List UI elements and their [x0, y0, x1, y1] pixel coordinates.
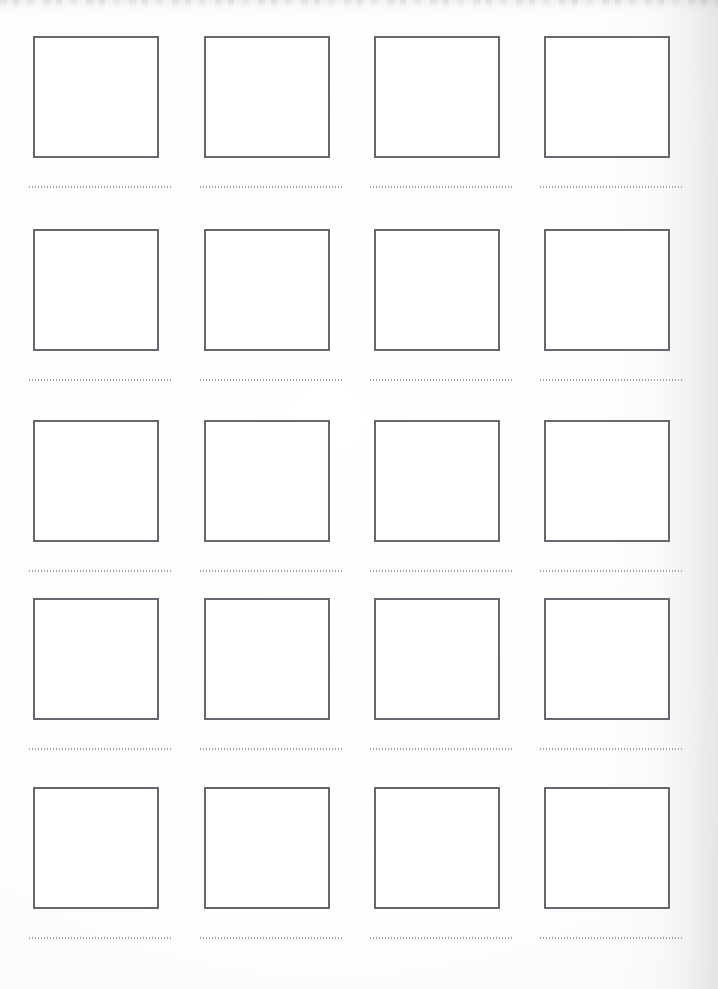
worksheet-cell[interactable]	[28, 598, 178, 773]
dotted-writing-rule[interactable]	[539, 748, 682, 750]
drawing-box[interactable]	[544, 787, 670, 909]
dotted-writing-rule[interactable]	[539, 570, 682, 572]
dotted-writing-rule[interactable]	[28, 570, 171, 572]
worksheet-row	[0, 420, 718, 595]
drawing-box[interactable]	[374, 598, 500, 720]
dotted-writing-rule[interactable]	[28, 379, 171, 381]
worksheet-cell[interactable]	[28, 787, 178, 962]
drawing-box[interactable]	[544, 36, 670, 158]
drawing-box[interactable]	[374, 420, 500, 542]
worksheet-cell[interactable]	[369, 420, 519, 595]
drawing-box[interactable]	[204, 36, 330, 158]
drawing-box[interactable]	[204, 420, 330, 542]
dotted-writing-rule[interactable]	[199, 748, 342, 750]
worksheet-row	[0, 787, 718, 962]
worksheet-row	[0, 229, 718, 404]
dotted-writing-rule[interactable]	[199, 570, 342, 572]
worksheet-cell[interactable]	[199, 787, 349, 962]
drawing-box[interactable]	[33, 787, 159, 909]
drawing-box[interactable]	[204, 229, 330, 351]
drawing-box[interactable]	[204, 787, 330, 909]
drawing-box[interactable]	[33, 598, 159, 720]
drawing-box[interactable]	[374, 36, 500, 158]
dotted-writing-rule[interactable]	[199, 379, 342, 381]
dotted-writing-rule[interactable]	[539, 186, 682, 188]
dotted-writing-rule[interactable]	[28, 937, 171, 939]
worksheet-cell[interactable]	[539, 420, 689, 595]
worksheet-page	[0, 0, 718, 989]
worksheet-cell[interactable]	[539, 787, 689, 962]
dotted-writing-rule[interactable]	[199, 937, 342, 939]
dotted-writing-rule[interactable]	[539, 937, 682, 939]
worksheet-cell[interactable]	[539, 229, 689, 404]
worksheet-cell[interactable]	[199, 36, 349, 211]
drawing-box[interactable]	[33, 420, 159, 542]
drawing-box[interactable]	[204, 598, 330, 720]
dotted-writing-rule[interactable]	[28, 748, 171, 750]
dotted-writing-rule[interactable]	[369, 748, 512, 750]
worksheet-grid	[0, 0, 718, 989]
drawing-box[interactable]	[374, 787, 500, 909]
drawing-box[interactable]	[544, 598, 670, 720]
worksheet-cell[interactable]	[369, 598, 519, 773]
drawing-box[interactable]	[544, 420, 670, 542]
worksheet-cell[interactable]	[369, 229, 519, 404]
worksheet-cell[interactable]	[28, 229, 178, 404]
dotted-writing-rule[interactable]	[28, 186, 171, 188]
dotted-writing-rule[interactable]	[199, 186, 342, 188]
dotted-writing-rule[interactable]	[369, 379, 512, 381]
worksheet-cell[interactable]	[539, 598, 689, 773]
worksheet-cell[interactable]	[199, 598, 349, 773]
dotted-writing-rule[interactable]	[539, 379, 682, 381]
worksheet-cell[interactable]	[369, 787, 519, 962]
worksheet-row	[0, 36, 718, 211]
worksheet-row	[0, 598, 718, 773]
worksheet-cell[interactable]	[28, 420, 178, 595]
drawing-box[interactable]	[374, 229, 500, 351]
worksheet-cell[interactable]	[28, 36, 178, 211]
dotted-writing-rule[interactable]	[369, 186, 512, 188]
drawing-box[interactable]	[544, 229, 670, 351]
dotted-writing-rule[interactable]	[369, 937, 512, 939]
worksheet-cell[interactable]	[199, 229, 349, 404]
drawing-box[interactable]	[33, 36, 159, 158]
worksheet-cell[interactable]	[369, 36, 519, 211]
worksheet-cell[interactable]	[199, 420, 349, 595]
dotted-writing-rule[interactable]	[369, 570, 512, 572]
drawing-box[interactable]	[33, 229, 159, 351]
worksheet-cell[interactable]	[539, 36, 689, 211]
